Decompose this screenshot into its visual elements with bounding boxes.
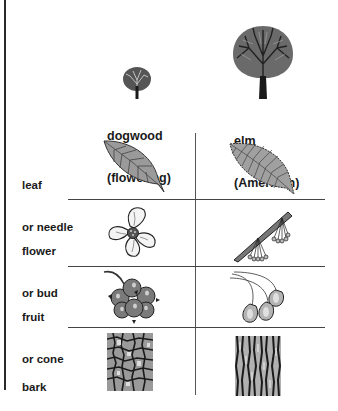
row-label-line1: flower: [22, 244, 58, 258]
row-divider: [68, 327, 325, 328]
elm-samara-icon: [228, 270, 294, 324]
left-border-line: [4, 0, 6, 390]
row-divider: [68, 266, 325, 267]
row-divider: [68, 199, 325, 200]
elm-leaf-icon: [226, 140, 296, 196]
column-divider: [195, 133, 196, 395]
row-label-line1: leaf: [22, 178, 73, 192]
tree-large-icon: [231, 24, 295, 100]
dogwood-bark-texture-icon: [107, 333, 153, 391]
elm-bark-texture-icon: [235, 336, 281, 396]
row-label-bark: bark: [22, 352, 46, 411]
tree-small-icon: [121, 66, 153, 100]
row-label-line1: bark: [22, 380, 46, 394]
dogwood-leaf-icon: [100, 138, 166, 194]
elm-flower-cluster-icon: [230, 208, 296, 264]
dogwood-berry-cluster-icon: [100, 268, 166, 324]
row-label-line1: fruit: [22, 310, 64, 324]
dogwood-flower-icon: [104, 204, 160, 260]
